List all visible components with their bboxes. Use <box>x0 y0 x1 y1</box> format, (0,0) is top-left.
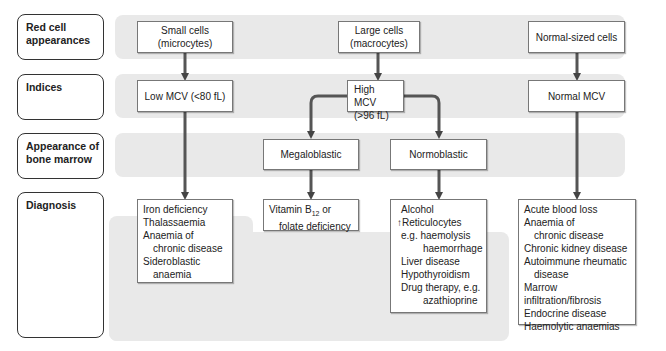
dx-item: chronic disease <box>524 229 630 242</box>
dx-item: Iron deficiency <box>143 203 227 216</box>
box-normal-mcv: Normal MCV <box>528 80 625 112</box>
normoblastic-label: Normoblastic <box>409 148 467 161</box>
dx-item: Anaemia of <box>524 216 630 229</box>
normal-mcv-label: Normal MCV <box>548 90 605 103</box>
dx-item: folate deficiency <box>269 220 353 233</box>
dx-item: Liver disease <box>401 255 481 268</box>
dx-item: Chronic kidney disease <box>524 242 630 255</box>
large-cells-label: Large cells <box>355 24 403 37</box>
macrocytes-label: (macrocytes) <box>350 37 408 50</box>
dx-item: haemorrhage <box>401 242 481 255</box>
small-cells-label: Small cells <box>161 24 209 37</box>
dx-item: Endocrine disease <box>524 307 630 320</box>
box-diagnosis-microcytic: Iron deficiency Thalassaemia Anaemia of … <box>137 199 233 283</box>
box-diagnosis-normocytic: Acute blood loss Anaemia of chronic dise… <box>518 199 636 325</box>
box-small-cells: Small cells (microcytes) <box>137 21 233 53</box>
dx-item: azathioprine <box>401 294 481 307</box>
dx-item: e.g. haemolysis <box>401 229 481 242</box>
dx-item: Acute blood loss <box>524 203 630 216</box>
box-high-mcv: High MCV (>96 fL) <box>347 80 404 112</box>
low-mcv-label: Low MCV (<80 fL) <box>145 90 226 103</box>
normal-cells-label: Normal-sized cells <box>536 31 618 44</box>
box-megaloblastic: Megaloblastic <box>263 139 359 170</box>
dx-item: anaemia <box>143 268 227 281</box>
box-normal-cells: Normal-sized cells <box>528 21 625 53</box>
box-diagnosis-normoblastic: Alcohol ↑Reticulocytes e.g. haemolysis h… <box>390 199 487 313</box>
dx-item: chronic disease <box>143 242 227 255</box>
box-large-cells: Large cells (macrocytes) <box>338 21 420 53</box>
dx-item: Marrow infiltration/fibrosis <box>524 281 630 307</box>
high-mcv-value: (>96 fL) <box>354 109 397 122</box>
dx-item: Sideroblastic <box>143 255 227 268</box>
megaloblastic-label: Megaloblastic <box>280 148 341 161</box>
box-low-mcv: Low MCV (<80 fL) <box>137 80 233 112</box>
dx-item: Thalassaemia <box>143 216 227 229</box>
microcytes-label: (microcytes) <box>158 37 212 50</box>
box-normoblastic: Normoblastic <box>390 139 487 170</box>
dx-item: Drug therapy, e.g. <box>401 281 481 294</box>
dx-item: disease <box>524 268 630 281</box>
dx-item: Haemolytic anaemias <box>524 320 630 333</box>
dx-item: Autoimmune rheumatic <box>524 255 630 268</box>
dx-item: Hypothyroidism <box>401 268 481 281</box>
dx-item: Alcohol <box>401 203 481 216</box>
dx-item: Anaemia of <box>143 229 227 242</box>
box-diagnosis-megaloblastic: Vitamin B12 or folate deficiency <box>263 199 359 231</box>
dx-item: ↑Reticulocytes <box>397 216 481 229</box>
dx-item: Vitamin B12 or <box>269 203 353 220</box>
high-mcv-label: High MCV <box>354 83 397 109</box>
